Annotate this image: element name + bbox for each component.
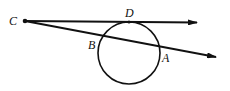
circle — [98, 22, 160, 84]
tangent-ray-CD — [25, 21, 197, 23]
label-C: C — [9, 14, 18, 28]
point-D — [128, 21, 131, 24]
point-C — [23, 19, 28, 24]
label-A: A — [161, 51, 170, 65]
label-D: D — [124, 6, 134, 20]
label-B: B — [88, 38, 96, 52]
geometry-diagram: C D B A — [0, 0, 230, 91]
secant-ray-CBA — [25, 21, 216, 57]
